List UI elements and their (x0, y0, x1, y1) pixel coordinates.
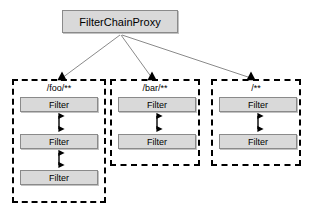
proxy-to-bar-connector (121, 35, 157, 80)
filter-node-all-1[interactable]: Filter (219, 97, 297, 112)
chain-group-all: /** (211, 79, 301, 166)
filter-chain-proxy-node[interactable]: FilterChainProxy (62, 10, 178, 33)
filter-node-foo-2[interactable]: Filter (20, 134, 98, 149)
filter-chain-diagram: FilterChainProxy /foo/** Filter Filter F… (0, 0, 314, 218)
chain-group-bar-label: /bar/** (112, 83, 198, 93)
filter-node-bar-2[interactable]: Filter (118, 134, 196, 149)
filter-node-all-2[interactable]: Filter (219, 134, 297, 149)
proxy-to-all-connector (122, 35, 256, 80)
chain-group-all-label: /** (213, 83, 299, 93)
filter-node-bar-1[interactable]: Filter (118, 97, 196, 112)
chain-group-bar: /bar/** (110, 79, 200, 166)
filter-node-foo-1[interactable]: Filter (20, 97, 98, 112)
filter-node-foo-3[interactable]: Filter (20, 170, 98, 185)
proxy-to-foo-connector (57, 35, 120, 80)
chain-group-foo-label: /foo/** (14, 83, 104, 93)
